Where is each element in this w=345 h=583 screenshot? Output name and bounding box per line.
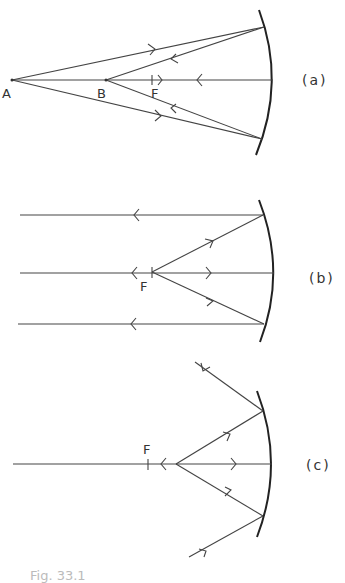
panel-b: F (b) bbox=[18, 200, 335, 342]
point-label-A: A bbox=[2, 86, 11, 101]
reflected-ray-bottom-c bbox=[189, 516, 263, 557]
arrow-right-icon bbox=[155, 110, 161, 121]
panel-label-a: (a) bbox=[302, 72, 328, 88]
incident-ray-bottom-c bbox=[176, 464, 263, 516]
incident-ray-bottom-b bbox=[152, 272, 264, 324]
panel-label-b: (b) bbox=[309, 270, 335, 286]
concave-mirror-b bbox=[259, 200, 273, 342]
incident-ray-bottom-a bbox=[12, 80, 262, 139]
incident-ray-top-c bbox=[176, 411, 263, 464]
incident-ray-top-a bbox=[12, 27, 264, 80]
point-label-F: F bbox=[151, 86, 158, 101]
incident-ray-top-b bbox=[152, 215, 263, 272]
arrow-right-icon bbox=[148, 44, 155, 55]
figure-caption: Fig. 33.1 bbox=[30, 568, 86, 583]
point-a-dot bbox=[11, 79, 14, 82]
point-label-B: B bbox=[97, 86, 106, 101]
panel-label-c: (c) bbox=[306, 457, 331, 473]
point-b-dot bbox=[105, 79, 108, 82]
arrow-left-icon bbox=[201, 363, 210, 371]
arrow-right-icon bbox=[205, 239, 213, 248]
arrow-right-icon bbox=[223, 432, 230, 441]
reflected-ray-top-a bbox=[106, 27, 264, 80]
arrow-left-icon bbox=[171, 54, 178, 63]
point-label-F: F bbox=[143, 442, 150, 457]
arrow-right-icon bbox=[206, 298, 213, 306]
reflected-ray-bottom-a bbox=[106, 80, 262, 139]
point-label-F: F bbox=[140, 279, 147, 294]
arrow-left-icon bbox=[199, 549, 206, 557]
panel-c: F (c) bbox=[13, 362, 331, 557]
concave-mirror-a bbox=[256, 10, 272, 155]
panel-a: A B F (a) bbox=[2, 10, 328, 155]
